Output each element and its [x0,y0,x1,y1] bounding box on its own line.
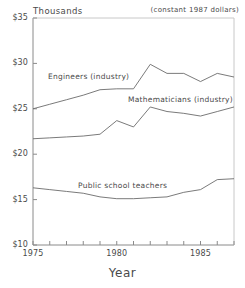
series-label-engineers: Engineers (industry) [48,72,129,81]
y-tick-label: $30 [2,58,28,67]
y-tick-label: $15 [2,195,28,204]
plot-area [0,0,245,288]
x-axis-title: Year [0,266,245,280]
x-tick-label: 1975 [16,249,50,258]
x-tick-marks [33,241,234,245]
series-line-mathematicians [33,107,234,139]
x-tick-label: 1980 [100,249,134,258]
y-tick-marks [33,18,37,245]
y-tick-label: $25 [2,104,28,113]
line-chart: Thousands (constant 1987 dollars) $35$30… [0,0,245,288]
y-tick-label: $10 [2,240,28,249]
y-tick-label: $20 [2,149,28,158]
x-tick-label: 1985 [184,249,218,258]
series-label-mathematicians: Mathematicians (industry) [128,95,233,104]
y-tick-label: $35 [2,13,28,22]
series-label-teachers: Public school teachers [78,181,167,190]
